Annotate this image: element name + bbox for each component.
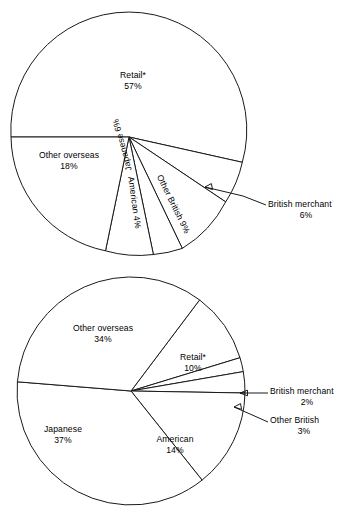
bottom-label-other-overseas: Other overseas 34% [53,323,153,345]
top-label-british-merchant-value: 6% [268,210,344,221]
top-label-american-value: 4% [132,215,144,229]
bottom-label-british-merchant-value: 2% [270,397,344,408]
bottom-pie-group [17,277,268,505]
bottom-label-japanese-name: Japanese [44,424,82,434]
bottom-label-other-overseas-name: Other overseas [73,323,133,333]
bottom-label-american-value: 14% [140,445,210,456]
top-label-other-overseas-value: 18% [24,161,114,172]
bottom-label-other-british-name: Other British [270,415,319,425]
bottom-label-other-overseas-value: 34% [53,334,153,345]
top-label-retail-name: Retail* [120,70,146,80]
bottom-british-merchant-callout [240,390,268,396]
top-label-british-merchant: British merchant 6% [268,199,345,221]
bottom-label-retail: Retail* 10% [163,352,223,374]
bottom-label-british-merchant-name: British merchant [270,386,334,396]
bottom-label-american-name: American [156,434,193,444]
bottom-label-american: American 14% [140,434,210,456]
bottom-label-other-british-value: 3% [270,426,338,437]
two-pie-chart-figure: Retail* 57% Other overseas 18% British m… [0,0,345,527]
bottom-label-retail-name: Retail* [180,352,206,362]
top-label-british-merchant-name: British merchant [268,199,332,209]
bottom-label-other-british: Other British 3% [270,415,342,437]
top-label-other-overseas-name: Other overseas [39,150,99,160]
bottom-label-british-merchant: British merchant 2% [270,386,345,408]
top-label-other-overseas: Other overseas 18% [24,150,114,172]
top-label-retail: Retail* 57% [103,70,163,92]
bottom-label-retail-value: 10% [163,363,223,374]
bottom-label-japanese: Japanese 37% [28,424,98,446]
top-label-retail-value: 57% [103,81,163,92]
bottom-label-japanese-value: 37% [28,435,98,446]
